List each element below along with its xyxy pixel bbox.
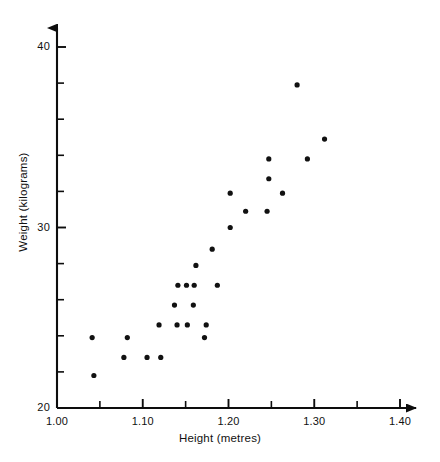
scatter-chart: 203040 1.001.101.201.301.40 Height (metr… bbox=[0, 0, 440, 462]
data-point bbox=[156, 322, 161, 327]
data-point bbox=[184, 283, 189, 288]
x-tick-label: 1.00 bbox=[32, 415, 82, 427]
data-point bbox=[193, 263, 198, 268]
data-point bbox=[121, 355, 126, 360]
data-point bbox=[172, 303, 177, 308]
x-tick-label: 1.10 bbox=[118, 415, 168, 427]
data-point bbox=[305, 156, 310, 161]
data-point bbox=[210, 247, 215, 252]
data-point bbox=[295, 82, 300, 87]
data-point bbox=[264, 209, 269, 214]
data-point bbox=[91, 373, 96, 378]
data-point bbox=[174, 322, 179, 327]
data-point bbox=[280, 191, 285, 196]
plot-canvas bbox=[0, 0, 440, 462]
data-point bbox=[175, 283, 180, 288]
data-point bbox=[202, 335, 207, 340]
data-points bbox=[90, 82, 328, 378]
data-point bbox=[192, 283, 197, 288]
data-point bbox=[228, 225, 233, 230]
data-point bbox=[243, 209, 248, 214]
x-tick-label: 1.30 bbox=[289, 415, 339, 427]
data-point bbox=[266, 156, 271, 161]
y-axis-ticks bbox=[57, 47, 66, 408]
x-tick-label: 1.40 bbox=[375, 415, 425, 427]
data-point bbox=[215, 283, 220, 288]
data-point bbox=[144, 355, 149, 360]
y-tick-label: 40 bbox=[19, 40, 50, 52]
data-point bbox=[228, 191, 233, 196]
y-tick-label: 20 bbox=[19, 401, 50, 413]
data-point bbox=[158, 355, 163, 360]
data-point bbox=[125, 335, 130, 340]
y-axis-title: Weight (kilograms) bbox=[17, 127, 29, 277]
x-tick-label: 1.20 bbox=[204, 415, 254, 427]
data-point bbox=[185, 322, 190, 327]
data-point bbox=[90, 335, 95, 340]
data-point bbox=[322, 136, 327, 141]
x-axis-title: Height (metres) bbox=[0, 432, 440, 444]
x-axis-ticks bbox=[57, 399, 400, 408]
data-point bbox=[204, 322, 209, 327]
data-point bbox=[266, 176, 271, 181]
data-point bbox=[191, 303, 196, 308]
